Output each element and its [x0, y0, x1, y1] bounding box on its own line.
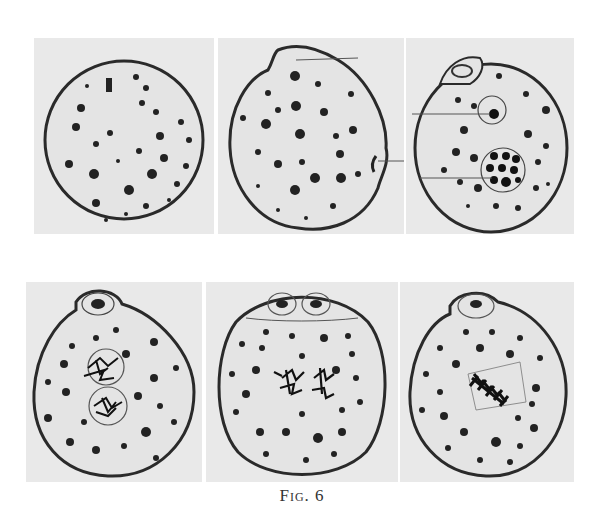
panel-e [206, 282, 398, 482]
cell-illustration-b [218, 38, 404, 234]
panel-f [400, 282, 574, 482]
panel-b [218, 38, 404, 234]
cell-illustration-d [26, 282, 202, 482]
panel-d [26, 282, 202, 482]
cell-illustration-f [400, 282, 574, 482]
figure-caption: Fig. 6 [0, 486, 604, 506]
cell-illustration-a [34, 38, 214, 234]
panel-c [406, 38, 574, 234]
cell-illustration-e [206, 282, 398, 482]
panel-a [34, 38, 214, 234]
cell-illustration-c [406, 38, 574, 234]
